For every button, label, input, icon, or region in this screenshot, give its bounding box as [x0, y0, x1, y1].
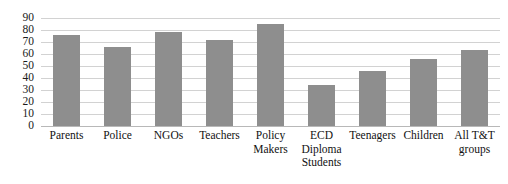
y-axis-tick-label: 80	[23, 24, 35, 36]
x-axis-label-line: Makers	[245, 143, 296, 157]
bar	[359, 71, 386, 126]
y-axis-tick-label: 10	[23, 108, 35, 120]
x-axis-label-line: Students	[296, 156, 347, 170]
y-axis-tick-label: 20	[23, 96, 35, 108]
x-axis-label-line: Policy	[245, 129, 296, 143]
x-axis-tick-label: Teachers	[194, 129, 245, 143]
x-axis-tick-label: NGOs	[143, 129, 194, 143]
x-axis-label-line: Parents	[41, 129, 92, 143]
y-axis-tick-label: 0	[28, 120, 34, 132]
bar	[410, 59, 437, 126]
bar	[308, 85, 335, 126]
y-axis-tick-label: 50	[23, 60, 35, 72]
bar	[104, 47, 131, 126]
x-axis-label-line: ECD	[296, 129, 347, 143]
bar	[257, 24, 284, 126]
x-axis-tick-label: Parents	[41, 129, 92, 143]
bar	[461, 50, 488, 126]
y-axis-tick-label: 90	[23, 12, 35, 24]
y-axis-tick-label: 40	[23, 72, 35, 84]
x-axis-label-line: Teenagers	[347, 129, 398, 143]
x-axis-label-line: Diploma	[296, 143, 347, 157]
x-axis-tick-label: Police	[92, 129, 143, 143]
x-axis-label-line: Teachers	[194, 129, 245, 143]
x-axis-label-line: Children	[398, 129, 449, 143]
x-axis-label-line: NGOs	[143, 129, 194, 143]
x-axis-tick-label: All T&Tgroups	[449, 129, 500, 156]
x-axis-tick-label: Children	[398, 129, 449, 143]
y-axis-tick-label: 60	[23, 48, 35, 60]
bars-layer	[41, 18, 500, 126]
bar	[155, 32, 182, 126]
x-axis-label-line: Police	[92, 129, 143, 143]
x-axis-tick-label: Teenagers	[347, 129, 398, 143]
x-axis-tick-label: ECDDiplomaStudents	[296, 129, 347, 170]
x-axis-label-line: groups	[449, 143, 500, 157]
y-axis-tick-label: 70	[23, 36, 35, 48]
x-axis: ParentsPoliceNGOsTeachersPolicyMakersECD…	[41, 129, 500, 184]
y-axis: 9080706050403020100	[0, 18, 38, 126]
bar-chart-figure: 9080706050403020100 ParentsPoliceNGOsTea…	[0, 0, 508, 184]
x-axis-label-line: All T&T	[449, 129, 500, 143]
bar	[206, 40, 233, 126]
axis-baseline	[41, 126, 500, 127]
bar	[53, 35, 80, 126]
y-axis-tick-label: 30	[23, 84, 35, 96]
x-axis-tick-label: PolicyMakers	[245, 129, 296, 156]
